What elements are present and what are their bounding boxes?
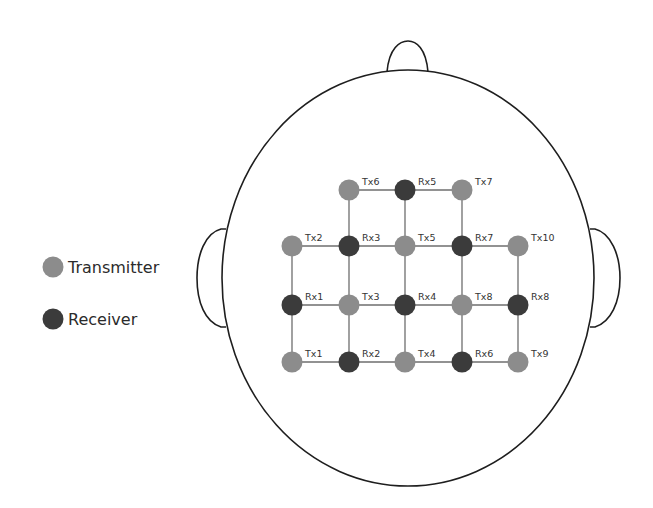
optode-tx1: Tx1 xyxy=(282,348,323,373)
optode-label: Rx8 xyxy=(531,291,549,302)
optode-connections xyxy=(292,190,518,362)
optode-label: Rx3 xyxy=(362,232,380,243)
optode-rx6: Rx6 xyxy=(452,348,494,373)
optode-tx4: Tx4 xyxy=(395,348,436,373)
legend-label-transmitter: Transmitter xyxy=(67,258,160,277)
optode-label: Rx6 xyxy=(475,348,493,359)
nose-icon xyxy=(387,41,428,72)
legend-label-receiver: Receiver xyxy=(68,310,138,329)
optode-nodes: Tx6Rx5Tx7Tx2Rx3Tx5Rx7Tx10Rx1Tx3Rx4Tx8Rx8… xyxy=(282,176,555,373)
transmitter-dot-icon xyxy=(452,180,473,201)
optode-label: Tx2 xyxy=(304,232,322,243)
head-outline xyxy=(197,41,620,486)
receiver-dot-icon xyxy=(395,180,416,201)
optode-label: Rx1 xyxy=(305,291,323,302)
optode-rx2: Rx2 xyxy=(339,348,381,373)
transmitter-dot-icon xyxy=(339,295,360,316)
transmitter-dot-icon xyxy=(395,236,416,257)
transmitter-dot-icon xyxy=(282,352,303,373)
optode-label: Rx2 xyxy=(362,348,380,359)
optode-rx8: Rx8 xyxy=(508,291,550,316)
receiver-dot-icon xyxy=(339,236,360,257)
optode-rx3: Rx3 xyxy=(339,232,381,257)
legend-item-transmitter: Transmitter xyxy=(43,257,160,278)
optode-label: Tx10 xyxy=(530,232,555,243)
head-optode-diagram: Transmitter Receiver Tx6Rx5Tx7Tx2Rx3Tx5R… xyxy=(0,0,653,508)
receiver-dot-icon xyxy=(339,352,360,373)
transmitter-dot-icon xyxy=(395,352,416,373)
optode-tx6: Tx6 xyxy=(339,176,380,201)
optode-label: Tx5 xyxy=(417,232,435,243)
legend: Transmitter Receiver xyxy=(43,257,160,330)
optode-rx5: Rx5 xyxy=(395,176,437,201)
transmitter-dot-icon xyxy=(508,236,529,257)
transmitter-dot-icon xyxy=(282,236,303,257)
transmitter-dot-icon xyxy=(452,295,473,316)
optode-label: Rx7 xyxy=(475,232,493,243)
optode-tx3: Tx3 xyxy=(339,291,380,316)
optode-label: Tx4 xyxy=(417,348,435,359)
legend-item-receiver: Receiver xyxy=(43,309,138,330)
optode-label: Rx4 xyxy=(418,291,436,302)
optode-label: Tx6 xyxy=(361,176,379,187)
optode-rx1: Rx1 xyxy=(282,291,324,316)
receiver-swatch-icon xyxy=(43,309,64,330)
optode-rx4: Rx4 xyxy=(395,291,437,316)
optode-label: Tx7 xyxy=(474,176,492,187)
optode-tx5: Tx5 xyxy=(395,232,436,257)
optode-label: Tx9 xyxy=(530,348,548,359)
transmitter-dot-icon xyxy=(339,180,360,201)
optode-label: Tx1 xyxy=(304,348,322,359)
optode-tx10: Tx10 xyxy=(508,232,555,257)
receiver-dot-icon xyxy=(452,236,473,257)
transmitter-swatch-icon xyxy=(43,257,64,278)
optode-label: Tx3 xyxy=(361,291,379,302)
optode-rx7: Rx7 xyxy=(452,232,494,257)
receiver-dot-icon xyxy=(508,295,529,316)
head-ellipse xyxy=(222,70,594,486)
optode-tx7: Tx7 xyxy=(452,176,493,201)
optode-label: Tx8 xyxy=(474,291,492,302)
optode-label: Rx5 xyxy=(418,176,436,187)
transmitter-dot-icon xyxy=(508,352,529,373)
optode-tx2: Tx2 xyxy=(282,232,323,257)
receiver-dot-icon xyxy=(395,295,416,316)
optode-tx8: Tx8 xyxy=(452,291,493,316)
optode-tx9: Tx9 xyxy=(508,348,549,373)
receiver-dot-icon xyxy=(282,295,303,316)
receiver-dot-icon xyxy=(452,352,473,373)
